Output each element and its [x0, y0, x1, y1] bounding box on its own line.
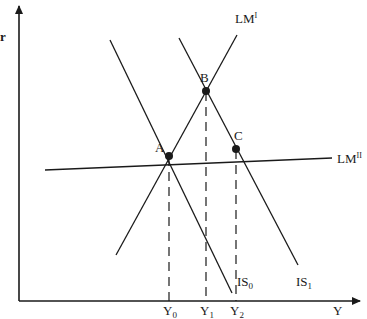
point-c — [232, 145, 240, 153]
tick-label-y2: Y2 — [230, 303, 244, 319]
point-b — [202, 87, 210, 95]
tick-label-y1: Y1 — [200, 303, 214, 319]
x-axis-label: Y — [333, 303, 343, 318]
lm1-curve — [116, 35, 237, 255]
lm1-label: LMI — [235, 11, 258, 26]
is-lm-diagram: r Y A B C LMI LMII IS0 IS1 Y0 Y1 Y2 — [0, 0, 367, 319]
lm11-curve — [45, 158, 332, 170]
point-b-label: B — [200, 70, 209, 85]
lm11-label: LMII — [337, 151, 362, 166]
point-a — [165, 152, 173, 160]
is1-label: IS1 — [296, 274, 312, 291]
y-axis-label: r — [0, 29, 6, 44]
tick-label-y0: Y0 — [163, 303, 177, 319]
point-a-label: A — [155, 140, 165, 155]
point-c-label: C — [234, 128, 243, 143]
is0-label: IS0 — [237, 274, 254, 291]
